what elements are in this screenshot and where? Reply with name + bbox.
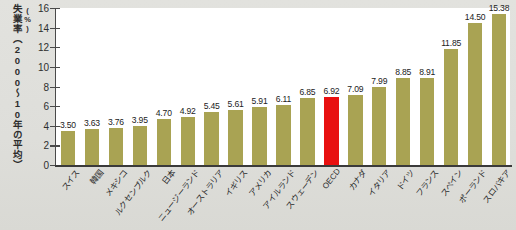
bar-item[interactable]: 5.45 [204,8,218,165]
bar-item[interactable]: 3.63 [85,8,99,165]
bar-item[interactable]: 6.11 [276,8,290,165]
y-tick-label: 10 [38,61,49,72]
bar[interactable] [420,78,434,165]
bar[interactable] [372,87,386,165]
bar-highlight[interactable] [324,97,338,165]
bar-value-label: 6.92 [323,86,339,96]
y-tick-label: 6 [43,101,49,112]
bar-value-label: 5.45 [204,101,220,111]
bar-series: 3.503.633.763.954.704.925.455.615.916.11… [56,8,510,165]
bar-value-label: 5.91 [252,96,268,106]
bar-value-label: 6.11 [276,94,291,104]
bar-item[interactable]: 3.76 [109,8,123,165]
bar-value-label: 14.50 [465,12,486,22]
bar-item[interactable]: 8.85 [396,8,410,165]
bar-item[interactable]: 3.50 [61,8,75,165]
bar[interactable] [181,117,195,165]
bar-value-label: 15.38 [489,3,510,13]
bar-value-label: 3.50 [60,120,76,130]
x-axis-category-label: スイス [58,167,82,193]
x-axis-category-label: 韓国 [86,167,105,187]
bar[interactable] [61,131,75,165]
x-axis-labels: スイス韓国メキシコルクセンブルク日本ニュージーランドオーストラリアイギリスアメリ… [55,167,510,229]
bar-item[interactable]: 7.99 [372,8,386,165]
bar-item[interactable]: 4.70 [157,8,171,165]
bar-value-label: 7.09 [347,84,363,94]
bar-value-label: 8.91 [419,67,435,77]
bar-item[interactable]: 14.50 [468,8,482,165]
bar[interactable] [348,95,362,165]
bar-value-label: 8.85 [395,67,411,77]
bar-value-label: 7.99 [371,76,387,86]
bar-item[interactable]: 5.91 [252,8,266,165]
bar-item[interactable]: 6.85 [300,8,314,165]
bar[interactable] [228,110,242,165]
y-tick-label: 0 [43,160,49,171]
bar-item[interactable]: 6.92 [324,8,338,165]
bar[interactable] [396,78,410,165]
x-axis-category-label: OECD [321,167,342,191]
bar-value-label: 4.92 [180,106,196,116]
bar[interactable] [276,105,290,165]
y-tick-label: 8 [43,81,49,92]
chart-figure: (%) 失業率（2000～10年の平均） 0246810121416 3.503… [0,0,516,230]
bar[interactable] [109,128,123,165]
x-axis-category-label: イタリア [364,167,392,199]
bar-value-label: 5.61 [228,99,244,109]
x-axis-category-label: フランス [412,167,440,199]
bar-item[interactable]: 15.38 [492,8,506,165]
bar[interactable] [300,98,314,165]
x-axis-category-label: 日本 [158,167,177,187]
bar[interactable] [133,126,147,165]
y-tick-label: 16 [38,3,49,14]
bar-value-label: 11.85 [441,38,461,48]
bar-value-label: 3.63 [84,118,100,128]
bar-item[interactable]: 5.61 [228,8,242,165]
bar[interactable] [444,49,458,165]
bar[interactable] [252,107,266,165]
y-axis-title-text: 失業率（2000～10年の平均） [12,4,22,170]
bar-value-label: 6.85 [299,87,315,97]
bar-item[interactable]: 3.95 [133,8,147,165]
bar-item[interactable]: 7.09 [348,8,362,165]
bar-item[interactable]: 4.92 [181,8,195,165]
y-axis-unit: (%) [22,6,32,33]
bar-value-label: 4.70 [156,108,172,118]
plot-area: 0246810121416 3.503.633.763.954.704.925.… [55,8,510,165]
bar[interactable] [468,23,482,165]
y-tick-label: 12 [38,42,49,53]
bar-item[interactable]: 8.91 [420,8,434,165]
y-tick-label: 2 [43,140,49,151]
y-tick-label: 4 [43,120,49,131]
y-axis-title: (%) 失業率（2000～10年の平均） [2,4,32,176]
bar[interactable] [492,14,506,165]
bar[interactable] [85,129,99,165]
bar[interactable] [204,112,218,165]
bar-item[interactable]: 11.85 [444,8,458,165]
y-tick-label: 14 [38,22,49,33]
bar-value-label: 3.76 [108,117,124,127]
bar-value-label: 3.95 [132,115,148,125]
x-axis-category-label: イギリス [221,167,249,199]
bar[interactable] [157,119,171,165]
